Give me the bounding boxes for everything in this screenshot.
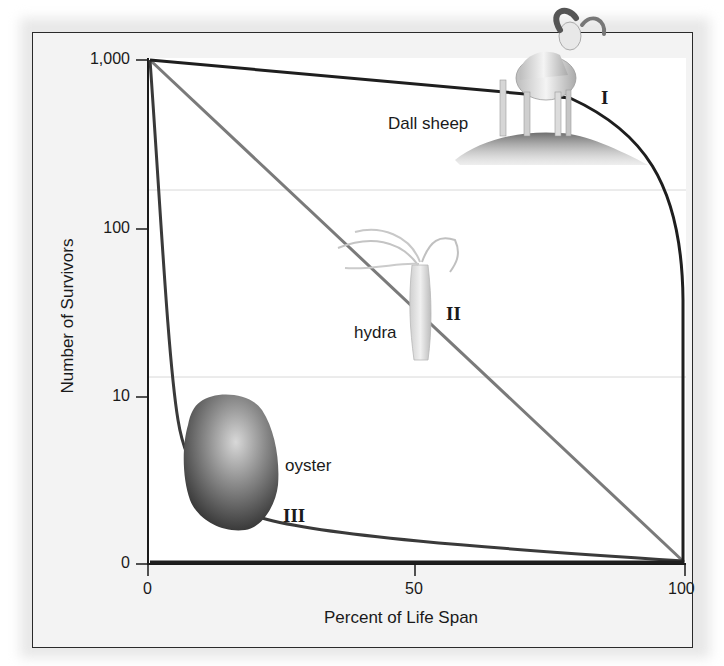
x-tick-label-100: 100: [668, 580, 695, 598]
x-axis-title: Percent of Life Span: [324, 608, 478, 628]
y-tick-label-0: 0: [50, 554, 130, 572]
x-tick-label-50: 50: [405, 580, 423, 598]
organism-label-oyster: oyster: [285, 456, 331, 476]
y-axis-title: Number of Survivors: [58, 236, 78, 396]
y-tick-label-1000: 1,000: [50, 50, 130, 68]
curve-label-type-2: II: [446, 303, 461, 325]
y-tick-label-100: 100: [50, 219, 130, 237]
organism-label-hydra: hydra: [354, 323, 397, 343]
oyster-illustration: [184, 394, 279, 530]
x-tick-label-0: 0: [143, 580, 152, 598]
organism-label-dall-sheep: Dall sheep: [388, 114, 468, 134]
curve-label-type-3: III: [283, 505, 305, 527]
curve-label-type-1: I: [601, 87, 608, 109]
